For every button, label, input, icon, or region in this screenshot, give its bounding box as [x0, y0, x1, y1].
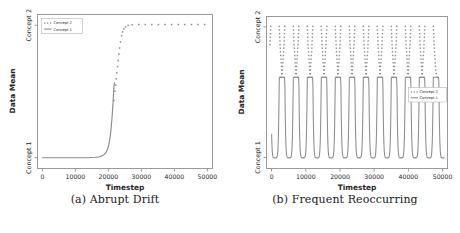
x-tick-label: 40000: [399, 173, 419, 180]
x-tick-label: 10000: [66, 173, 86, 180]
x-tick-label: 50000: [198, 173, 218, 180]
x-tick-label: 30000: [364, 173, 384, 180]
abrupt-drift-plot: 0 10000 20000 30000 40000 50000 Timestep…: [0, 0, 230, 193]
concept-drift-figure: 0 10000 20000 30000 40000 50000 Timestep…: [0, 0, 460, 233]
x-tick-label: 0: [270, 173, 274, 180]
y-axis-title: Data Mean: [237, 70, 246, 115]
frequent-reoccurring-plot: 0 10000 20000 30000 40000 50000 Timestep…: [230, 0, 460, 193]
legend-label-concept-1: Concept 1: [420, 96, 438, 100]
x-axis-title: Timestep: [106, 183, 145, 192]
y-tick-label-concept-1: Concept 1: [25, 141, 33, 174]
x-tick-label: 30000: [132, 173, 152, 180]
x-tick-label: 0: [40, 173, 44, 180]
chart-panel-frequent-reoccurring: 0 10000 20000 30000 40000 50000 Timestep…: [230, 0, 460, 233]
legend[interactable]: Concept 2 Concept 1: [409, 88, 447, 103]
dotted-line-swatch: [44, 22, 51, 23]
y-tick-label-concept-1: Concept 1: [254, 141, 262, 174]
panel-caption-b: (b) Frequent Reoccurring: [230, 193, 460, 206]
y-tick-label-concept-2: Concept 2: [25, 9, 33, 42]
x-tick-label: 50000: [433, 173, 453, 180]
dotted-line-swatch: [411, 91, 418, 92]
x-axis-title: Timestep: [338, 183, 377, 192]
plot-frame: [38, 15, 213, 169]
x-tick-label: 20000: [99, 173, 119, 180]
y-tick-label-concept-2: Concept 2: [254, 11, 262, 44]
x-tick-label: 40000: [165, 173, 185, 180]
panel-caption-a: (a) Abrupt Drift: [0, 193, 230, 206]
y-axis-title: Data Mean: [8, 69, 17, 114]
x-tick-label: 10000: [296, 173, 316, 180]
x-tick-label: 20000: [330, 173, 350, 180]
chart-panel-abrupt-drift: 0 10000 20000 30000 40000 50000 Timestep…: [0, 0, 230, 233]
legend[interactable]: Concept 2 Concept 1: [42, 19, 83, 34]
legend-label-concept-2: Concept 2: [54, 21, 72, 25]
legend-label-concept-2: Concept 2: [420, 90, 438, 94]
legend-label-concept-1: Concept 1: [54, 28, 72, 32]
